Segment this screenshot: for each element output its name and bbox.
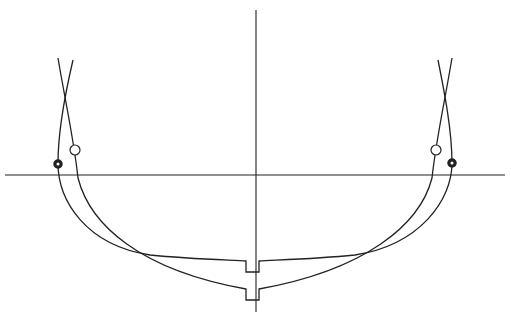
marker-solid-right-center xyxy=(451,162,454,165)
section-deep-curve xyxy=(58,58,452,300)
marker-open-right xyxy=(431,145,441,155)
marker-solid-left-center xyxy=(57,163,60,166)
marker-open-left xyxy=(70,145,80,155)
section-shallow-curve xyxy=(58,60,452,272)
hull-section-diagram xyxy=(0,0,511,317)
